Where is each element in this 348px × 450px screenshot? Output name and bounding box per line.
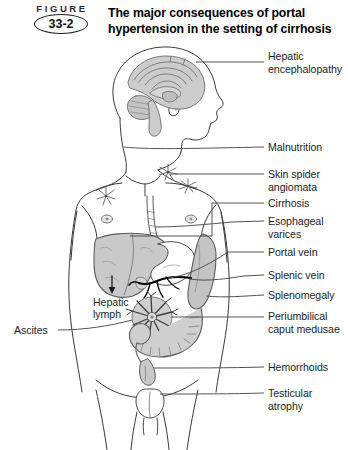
nipple-left [102, 215, 113, 223]
leader-malnutrition [124, 147, 264, 149]
label-malnutrition: Malnutrition [268, 141, 348, 154]
leader-splenomegaly [206, 295, 264, 297]
leader-esophageal-varices [156, 221, 264, 227]
label-portal-vein: Portal vein [268, 246, 348, 259]
label-esophageal-varices: Esophageal varices [268, 215, 348, 240]
scrotum [136, 389, 164, 435]
label-splenomegaly: Splenomegaly [268, 289, 348, 302]
label-hepatic-encephalopathy: Hepatic encephalopathy [268, 50, 348, 75]
label-cirrhosis: Cirrhosis [268, 197, 348, 210]
label-skin-spider-angiomata: Skin spider angiomata [268, 168, 348, 193]
nipple-right [186, 215, 197, 223]
label-splenic-vein: Splenic vein [268, 269, 348, 282]
leader-hemorrhoids [154, 367, 264, 368]
label-hemorrhoids: Hemorrhoids [268, 361, 348, 374]
label-periumbilical-caput-medusae: Periumbilical caput medusae [268, 310, 348, 335]
leader-testicular-atrophy [160, 393, 264, 394]
leader-ascites [58, 320, 132, 330]
rectum [140, 359, 156, 385]
label-hepatic-lymph: Hepatic lymph [93, 296, 129, 321]
label-testicular-atrophy: Testicular atrophy [268, 387, 348, 412]
brain-sagittal [127, 56, 204, 136]
label-ascites: Ascites [14, 324, 48, 337]
figure-page: FIGURE 33-2 The major consequences of po… [0, 0, 348, 450]
spider-angioma-3 [179, 179, 197, 193]
